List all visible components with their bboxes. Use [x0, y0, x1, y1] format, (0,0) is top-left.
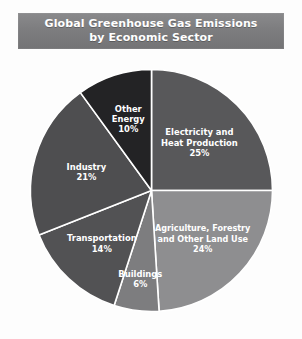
pie-slice-label-line: Buildings: [118, 269, 162, 279]
pie-slice-value-text: 6%: [133, 279, 148, 289]
pie-slice-label-line: Energy: [112, 114, 145, 124]
pie-slice-label-line: and Other Land Use: [157, 234, 248, 244]
chart-figure: Global Greenhouse Gas Emissions by Econo…: [0, 0, 302, 339]
pie-slice-label-line: Heat Production: [161, 138, 238, 148]
pie-slice-label-line: Other: [115, 104, 143, 114]
pie-slice-label-line: Industry: [67, 162, 107, 172]
pie-slice-value-text: 14%: [92, 244, 113, 254]
pie-slice-value-text: 25%: [189, 148, 210, 158]
pie-slice-label-line: Transportation: [67, 233, 137, 243]
pie-slice-label-line: Agriculture, Forestry: [155, 223, 251, 233]
pie-slice-value-text: 21%: [76, 172, 97, 182]
pie-chart-svg: Electricity andHeat Production25%Agricul…: [0, 0, 302, 339]
pie-slice-value-text: 24%: [193, 244, 212, 254]
pie-slice-value-text: 10%: [118, 124, 139, 134]
pie-chart: Electricity andHeat Production25%Agricul…: [0, 0, 302, 339]
pie-slice-label-line: Electricity and: [165, 127, 233, 137]
